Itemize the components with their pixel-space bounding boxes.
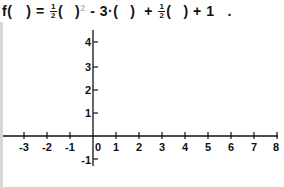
x-tick-label: 7 [251, 141, 257, 153]
x-tick-label: 0 [95, 141, 101, 153]
x-tick-label: 1 [113, 141, 119, 153]
coordinate-plane: -3-2-1012345678 4321-1 [0, 0, 284, 187]
x-ticks: -3-2-1012345678 [19, 132, 279, 153]
x-tick-label: -3 [19, 141, 29, 153]
y-tick-label: 1 [85, 107, 91, 119]
y-tick-label: 3 [85, 61, 91, 73]
x-tick-label: -1 [65, 141, 75, 153]
x-tick-label: 8 [273, 141, 279, 153]
x-tick-label: 6 [228, 141, 234, 153]
x-tick-label: 5 [205, 141, 211, 153]
x-tick-label: 2 [136, 141, 142, 153]
y-tick-label: 4 [85, 36, 92, 48]
x-tick-label: 3 [159, 141, 165, 153]
y-tick-label: -1 [81, 154, 91, 166]
y-tick-label: 2 [85, 84, 91, 96]
x-tick-label: 4 [182, 141, 189, 153]
x-tick-label: -2 [42, 141, 52, 153]
